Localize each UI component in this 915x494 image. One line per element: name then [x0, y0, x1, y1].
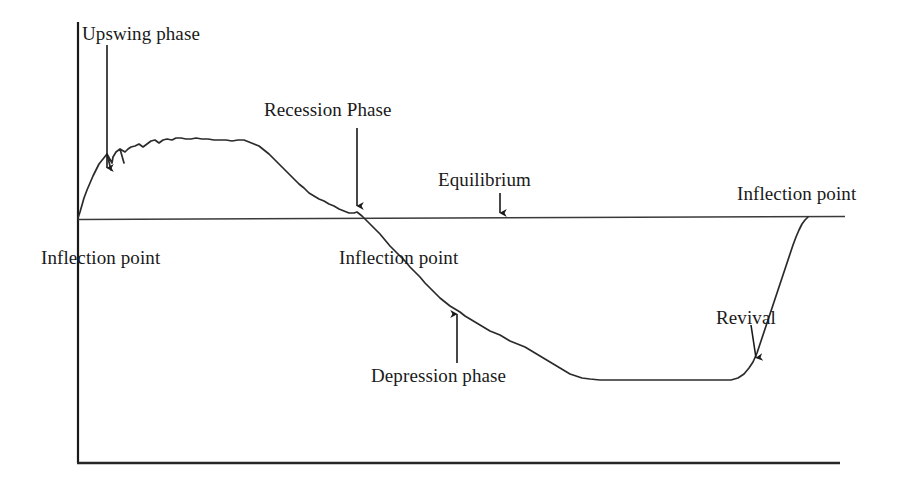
label-revival: Revival	[716, 308, 776, 328]
revival-arrow	[751, 325, 756, 358]
label-inflection-point-middle: Inflection point	[339, 248, 458, 268]
label-recession-phase: Recession Phase	[264, 100, 392, 120]
business-cycle-figure: Upswing phase Recession Phase Equilibriu…	[0, 0, 915, 494]
label-inflection-point-left: Inflection point	[41, 248, 160, 268]
label-equilibrium: Equilibrium	[438, 170, 531, 190]
label-inflection-point-right: Inflection point	[737, 184, 856, 204]
label-upswing-phase: Upswing phase	[82, 24, 200, 44]
label-depression-phase: Depression phase	[371, 366, 506, 386]
equilibrium-line	[78, 217, 845, 220]
